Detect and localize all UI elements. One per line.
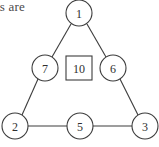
node-apex-label: 1 bbox=[76, 7, 82, 21]
node-center[interactable]: 10 bbox=[66, 56, 92, 80]
edge-7-2 bbox=[22, 79, 38, 115]
node-apex[interactable]: 1 bbox=[66, 0, 92, 26]
node-right-mid[interactable]: 6 bbox=[100, 55, 126, 81]
edge-1-6 bbox=[87, 24, 106, 57]
node-bottom-mid-label: 5 bbox=[77, 120, 83, 134]
node-bottom-right-label: 3 bbox=[142, 120, 148, 134]
node-bottom-left[interactable]: 2 bbox=[2, 113, 28, 139]
node-center-label: 10 bbox=[73, 62, 85, 76]
node-bottom-left-label: 2 bbox=[12, 120, 18, 134]
diagram-page: ls are 1 7 10 6 bbox=[0, 0, 159, 147]
node-right-mid-label: 6 bbox=[110, 62, 116, 76]
node-bottom-right[interactable]: 3 bbox=[132, 113, 158, 139]
node-bottom-mid[interactable]: 5 bbox=[67, 113, 93, 139]
node-left-mid-label: 7 bbox=[42, 62, 48, 76]
node-left-mid[interactable]: 7 bbox=[32, 55, 58, 81]
edge-6-3 bbox=[120, 79, 138, 115]
magic-triangle-diagram: 1 7 10 6 2 5 bbox=[0, 0, 159, 147]
node-group: 1 7 10 6 2 5 bbox=[2, 0, 158, 139]
edge-1-7 bbox=[52, 24, 71, 57]
